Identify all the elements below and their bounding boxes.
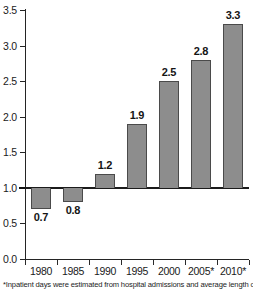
bars-layer: 0.70.81.21.92.52.83.3: [0, 0, 253, 266]
bar-value-label: 0.7: [26, 212, 56, 223]
bar: [31, 188, 51, 209]
bar-value-label: 1.2: [90, 160, 120, 171]
bar-value-label: 2.5: [154, 67, 184, 78]
bar-value-label: 3.3: [218, 10, 248, 21]
bar: [95, 174, 115, 188]
bar-value-label: 1.9: [122, 110, 152, 121]
bar: [63, 188, 83, 202]
bar-value-label: 2.8: [186, 46, 216, 57]
bar-value-label: 0.8: [58, 205, 88, 216]
bar: [223, 24, 243, 188]
x-axis-category-label: 2010*: [211, 266, 253, 277]
bar-chart: 0.00.51.01.52.02.53.03.5 0.70.81.21.92.5…: [0, 0, 253, 293]
bar: [191, 60, 211, 188]
bar: [127, 124, 147, 188]
footnote: *Inpatient days were estimated from hosp…: [3, 280, 251, 289]
bar: [159, 81, 179, 188]
